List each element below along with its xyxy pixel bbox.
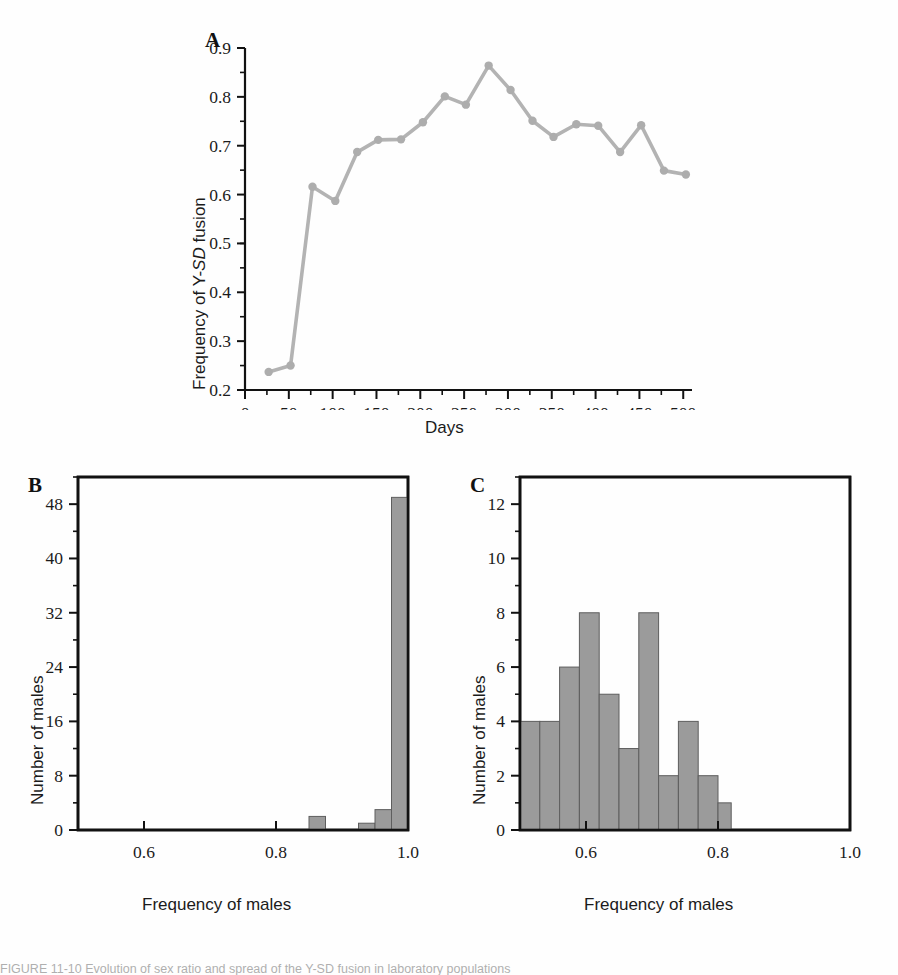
panel_c-xtick-label: 1.0 bbox=[839, 842, 861, 862]
panel_b-ytick-label: 16 bbox=[46, 711, 64, 731]
data-point bbox=[353, 148, 361, 156]
panel_c-ytick-label: 8 bbox=[496, 603, 505, 623]
panel-a-ytick-label: 0.3 bbox=[209, 331, 231, 351]
panel_c-bars bbox=[520, 613, 731, 830]
data-point bbox=[441, 92, 449, 100]
panel-a-ytick-label: 0.4 bbox=[209, 282, 231, 302]
data-point bbox=[660, 166, 668, 174]
panel-b-plot: 0816243240480.60.81.0 bbox=[0, 455, 450, 885]
panel-a-xtick-label: 250 bbox=[451, 403, 478, 410]
panel-a-xtick-label: 450 bbox=[626, 403, 653, 410]
panel_b-ytick-label: 40 bbox=[46, 548, 64, 568]
panel_c-xtick-label: 0.8 bbox=[707, 842, 729, 862]
panel_c-ytick-label: 2 bbox=[496, 766, 505, 786]
panel_b-ticks: 0816243240480.60.81.0 bbox=[46, 477, 420, 862]
data-point bbox=[264, 368, 272, 376]
panel-c-x-axis-title: Frequency of males bbox=[584, 895, 733, 915]
data-point bbox=[637, 121, 645, 129]
panel-a-label: A bbox=[205, 28, 220, 53]
histogram-bar bbox=[619, 749, 639, 830]
histogram-bar bbox=[579, 613, 599, 830]
panel-a-ytick-label: 0.7 bbox=[209, 136, 231, 156]
panel-a-data-line bbox=[269, 66, 686, 372]
panel-a-ytick-label: 0.2 bbox=[209, 380, 231, 400]
data-point bbox=[397, 135, 405, 143]
data-point bbox=[572, 120, 580, 128]
figure-root: A Frequency of Y-SD fusion Days 0.20.30.… bbox=[0, 0, 898, 975]
figure-caption: FIGURE 11-10 Evolution of sex ratio and … bbox=[0, 962, 898, 975]
data-point bbox=[528, 117, 536, 125]
panel-c: C Number of males Frequency of males 024… bbox=[448, 455, 898, 955]
panel-a-ytick-label: 0.5 bbox=[209, 233, 231, 253]
panel_b-frame bbox=[78, 477, 408, 830]
panel-a-xtick-label: 50 bbox=[280, 403, 298, 410]
panel_c-ytick-label: 12 bbox=[488, 494, 506, 514]
data-point bbox=[331, 197, 339, 205]
panel-a-ytick-label: 0.6 bbox=[209, 185, 231, 205]
panel_c-ytick-label: 6 bbox=[496, 657, 505, 677]
ylabel-pre: Frequency of Y- bbox=[190, 271, 209, 390]
data-point bbox=[484, 61, 492, 69]
histogram-bar bbox=[392, 497, 409, 830]
panel-a-xtick-label: 150 bbox=[363, 403, 390, 410]
data-point bbox=[616, 148, 624, 156]
panel_b-axes bbox=[78, 477, 408, 830]
panel-a-axes: 0.20.30.40.50.60.70.80.90501001502002503… bbox=[209, 38, 696, 410]
histogram-bar bbox=[309, 816, 326, 830]
panel-a-xtick-label: 300 bbox=[495, 403, 522, 410]
panel_b-ytick-label: 48 bbox=[46, 494, 64, 514]
panel_b-ytick-label: 24 bbox=[46, 657, 64, 677]
panel-a-xtick-label: 0 bbox=[241, 403, 250, 410]
data-point bbox=[506, 86, 514, 94]
data-point bbox=[549, 133, 557, 141]
histogram-bar bbox=[718, 803, 731, 830]
panel-c-plot: 0246810120.60.81.0 bbox=[448, 455, 898, 885]
panel-a-x-axis-title: Days bbox=[425, 418, 464, 438]
panel-b-x-axis-title: Frequency of males bbox=[142, 895, 291, 915]
panel_c-ytick-label: 4 bbox=[496, 711, 505, 731]
ylabel-post: fusion bbox=[190, 197, 209, 247]
panel-a-ytick-label: 0.8 bbox=[209, 87, 231, 107]
panel-a-xtick-label: 350 bbox=[539, 403, 566, 410]
histogram-bar bbox=[639, 613, 659, 830]
panel-b: B Number of males Frequency of males 081… bbox=[0, 455, 450, 955]
panel_b-xtick-label: 0.6 bbox=[133, 842, 155, 862]
panel_b-xtick-label: 0.8 bbox=[265, 842, 287, 862]
panel-a-xtick-label: 500 bbox=[670, 403, 697, 410]
panel_b-xtick-label: 1.0 bbox=[397, 842, 419, 862]
panel-a-data-markers bbox=[264, 61, 690, 376]
data-point bbox=[682, 170, 690, 178]
histogram-bar bbox=[659, 776, 679, 830]
panel-c-label: C bbox=[470, 473, 485, 498]
panel_b-ytick-label: 32 bbox=[46, 603, 64, 623]
panel-a-plot: 0.20.30.40.50.60.70.80.90501001502002503… bbox=[0, 0, 898, 410]
panel_b-bars bbox=[309, 497, 408, 830]
panel-a-xtick-label: 200 bbox=[407, 403, 434, 410]
histogram-bar bbox=[599, 694, 619, 830]
histogram-bar bbox=[540, 721, 560, 830]
histogram-bar bbox=[698, 776, 718, 830]
panel-a-xtick-label: 400 bbox=[582, 403, 609, 410]
panel_b-ytick-label: 0 bbox=[54, 820, 63, 840]
panel-b-y-axis-title: Number of males bbox=[28, 676, 48, 805]
histogram-bar bbox=[520, 721, 540, 830]
panel_c-ytick-label: 0 bbox=[496, 820, 505, 840]
data-point bbox=[419, 118, 427, 126]
panel-c-y-axis-title: Number of males bbox=[470, 676, 490, 805]
data-point bbox=[374, 136, 382, 144]
histogram-bar bbox=[678, 721, 698, 830]
data-point bbox=[462, 100, 470, 108]
data-point bbox=[308, 183, 316, 191]
panel-a-xtick-label: 100 bbox=[320, 403, 347, 410]
panel-a-y-axis-title: Frequency of Y-SD fusion bbox=[190, 197, 210, 390]
histogram-bar bbox=[375, 810, 392, 830]
data-point bbox=[286, 361, 294, 369]
histogram-bar bbox=[560, 667, 580, 830]
data-point bbox=[594, 121, 602, 129]
panel_c-ytick-label: 10 bbox=[488, 548, 506, 568]
panel-a: A Frequency of Y-SD fusion Days 0.20.30.… bbox=[0, 0, 898, 460]
panel_b-ytick-label: 8 bbox=[54, 766, 63, 786]
ylabel-italic: SD bbox=[190, 247, 209, 271]
panel-b-label: B bbox=[28, 473, 42, 498]
panel_c-xtick-label: 0.6 bbox=[575, 842, 597, 862]
